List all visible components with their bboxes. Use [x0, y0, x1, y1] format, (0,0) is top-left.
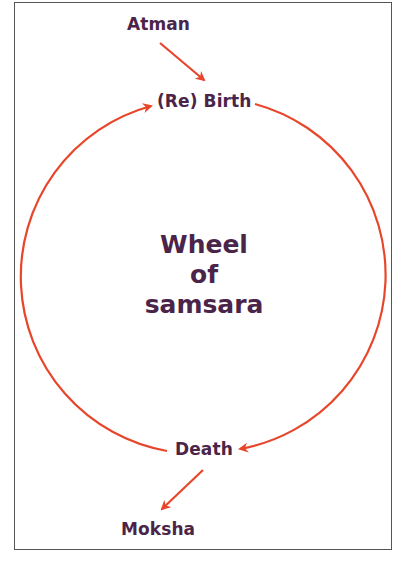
wheel-of-samsara-title: Wheel of samsara: [104, 230, 304, 320]
arrow-atman-to-rebirth: [160, 43, 204, 80]
node-death: Death: [175, 441, 233, 458]
node-moksha: Moksha: [121, 521, 195, 538]
title-line-3: samsara: [104, 290, 304, 320]
title-line-1: Wheel: [104, 230, 304, 260]
title-line-2: of: [104, 260, 304, 290]
node-rebirth: (Re) Birth: [157, 93, 251, 110]
arrow-death-to-moksha: [162, 470, 203, 509]
node-atman: Atman: [127, 16, 190, 33]
